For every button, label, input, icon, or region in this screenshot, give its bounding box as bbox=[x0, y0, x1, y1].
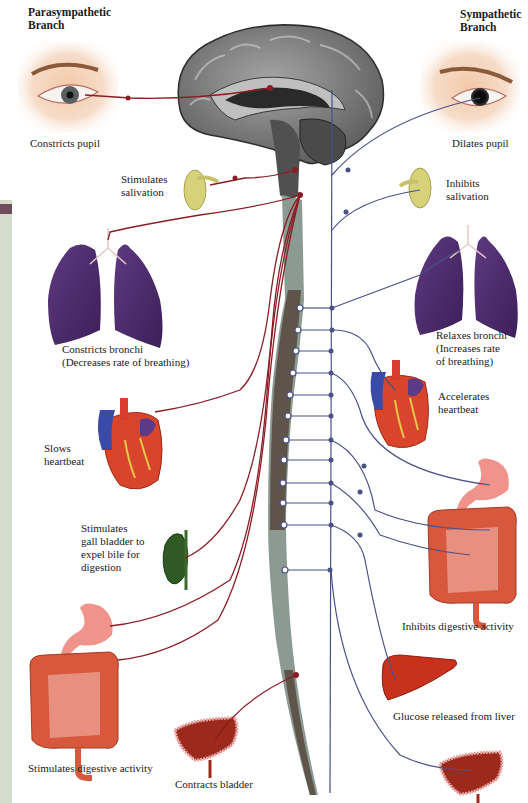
gallbladder bbox=[163, 530, 188, 590]
thoracolumbar-region bbox=[270, 290, 301, 530]
sympathetic-branch-heading: Sympathetic Branch bbox=[460, 8, 521, 34]
label-inhibits-digestive-activity: Inhibits digestive activity bbox=[402, 620, 514, 633]
label-dilates-pupil: Dilates pupil bbox=[452, 137, 509, 150]
spinal-cord bbox=[268, 195, 318, 795]
label-accelerates-heartbeat: Accelerates heartbeat bbox=[438, 390, 489, 416]
label-glucose-released: Glucose released from liver bbox=[393, 710, 515, 723]
pupil-dilated bbox=[474, 91, 487, 104]
sympathetic-lungs bbox=[415, 225, 518, 338]
parasympathetic-digestive-tract bbox=[30, 603, 118, 778]
pupil-constricted bbox=[67, 92, 74, 99]
parasympathetic-bladder bbox=[175, 718, 237, 778]
label-slows-heartbeat: Slows heartbeat bbox=[44, 442, 84, 468]
label-stimulates-digestive-activity: Stimulates digestive activity bbox=[28, 762, 153, 775]
label-constricts-pupil: Constricts pupil bbox=[30, 137, 100, 150]
parasympathetic-branch-heading: Parasympathetic Branch bbox=[28, 6, 111, 32]
sympathetic-salivary-gland bbox=[400, 168, 431, 208]
sympathetic-bladder bbox=[440, 752, 502, 803]
label-contracts-bladder: Contracts bladder bbox=[175, 778, 253, 791]
parasympathetic-heart bbox=[98, 398, 162, 489]
sympathetic-eye bbox=[420, 42, 520, 132]
parasympathetic-lungs bbox=[48, 228, 163, 348]
sympathetic-heart bbox=[371, 360, 429, 448]
nerve-to-liver bbox=[331, 525, 395, 680]
parasympathetic-salivary-gland bbox=[184, 170, 218, 210]
label-stimulates-gall-bladder: Stimulates gall bladder to expel bile fo… bbox=[81, 522, 145, 574]
parasympathetic-eye bbox=[18, 42, 118, 132]
label-inhibits-salivation: Inhibits salivation bbox=[446, 177, 489, 203]
eye-skin-patch bbox=[420, 42, 520, 132]
sacral-region bbox=[284, 670, 316, 795]
label-stimulates-salivation: Stimulates salivation bbox=[121, 173, 167, 199]
sympathetic-digestive-tract bbox=[428, 459, 516, 627]
liver bbox=[382, 655, 456, 700]
label-relaxes-bronchi: Relaxes bronchi (Increases rate of breat… bbox=[436, 329, 507, 368]
label-constricts-bronchi: Constricts bronchi (Decreases rate of br… bbox=[62, 343, 189, 369]
